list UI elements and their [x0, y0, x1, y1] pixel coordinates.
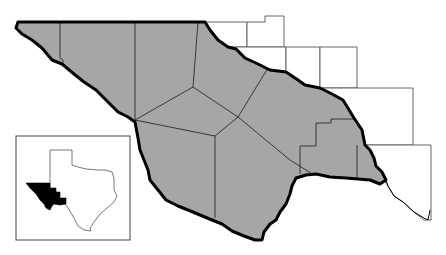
map-canvas: [0, 0, 446, 255]
inset-locator-map: [16, 136, 130, 240]
